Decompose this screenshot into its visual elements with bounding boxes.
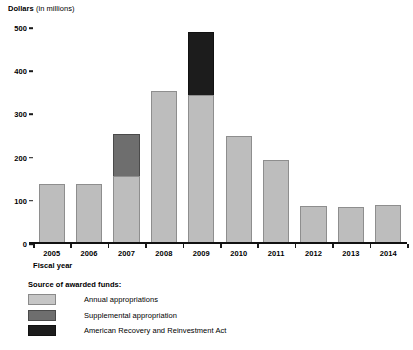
y-tick-label: 200 — [14, 153, 27, 162]
y-axis-title-strong: Dollars — [8, 4, 34, 13]
x-tick-mark — [183, 244, 185, 248]
legend-rows: Annual appropriationsSupplemental approp… — [28, 293, 398, 337]
bar-chart: Dollars (in millions) 0100200300400500 2… — [0, 0, 413, 350]
legend-label: American Recovery and Reinvestment Act — [84, 326, 226, 335]
x-tick-mark — [70, 244, 72, 248]
bar-group — [39, 184, 65, 244]
legend-swatch — [28, 294, 56, 305]
bar-group — [375, 205, 401, 244]
y-tick-mark — [29, 200, 33, 202]
y-tick-mark — [29, 27, 33, 29]
x-axis-line — [29, 242, 407, 244]
x-tick-label-2010: 2010 — [230, 249, 247, 258]
y-tick-mark — [29, 70, 33, 72]
x-tick-label-2006: 2006 — [81, 249, 98, 258]
bar-segment — [113, 134, 139, 176]
y-tick-label: 400 — [14, 67, 27, 76]
x-tick-mark — [295, 244, 297, 248]
x-tick-label-2005: 2005 — [43, 249, 60, 258]
legend-item: Annual appropriations — [28, 293, 398, 306]
bar-group — [76, 184, 102, 244]
y-tick-label: 100 — [14, 196, 27, 205]
bar-segment — [300, 206, 326, 244]
bars-layer — [33, 28, 407, 244]
x-tick-mark — [108, 244, 110, 248]
legend-swatch — [28, 310, 56, 321]
bar-group — [113, 134, 139, 244]
y-tick-label: 0 — [23, 240, 27, 249]
legend-label: Supplemental appropriation — [84, 311, 177, 320]
bar-segment — [188, 32, 214, 95]
bar-group — [338, 207, 364, 244]
legend-title: Source of awarded funds: — [28, 280, 398, 289]
plot-area: 0100200300400500 — [33, 28, 407, 244]
bar-segment — [76, 184, 102, 244]
bar-segment — [39, 184, 65, 244]
bar-group — [263, 160, 289, 244]
x-axis-title: Fiscal year — [33, 261, 72, 270]
bar-segment — [113, 176, 139, 244]
y-tick-mark — [29, 114, 33, 116]
x-tick-label-2012: 2012 — [305, 249, 322, 258]
x-tick-label-2011: 2011 — [268, 249, 285, 258]
bar-segment — [226, 136, 252, 244]
x-tick-mark — [370, 244, 372, 248]
y-tick-label: 300 — [14, 110, 27, 119]
legend-item: Supplemental appropriation — [28, 309, 398, 322]
bar-segment — [151, 91, 177, 244]
legend-swatch — [28, 325, 56, 336]
legend-label: Annual appropriations — [84, 295, 158, 304]
bar-group — [188, 32, 214, 244]
x-tick-mark — [257, 244, 259, 248]
x-tick-label-2007: 2007 — [118, 249, 135, 258]
y-tick-mark — [29, 157, 33, 159]
bar-segment — [338, 207, 364, 244]
bar-group — [300, 206, 326, 244]
x-tick-mark — [407, 244, 409, 248]
y-tick-label: 500 — [14, 24, 27, 33]
x-tick-label-2008: 2008 — [155, 249, 172, 258]
bar-segment — [188, 95, 214, 244]
x-tick-label-2013: 2013 — [342, 249, 359, 258]
x-tick-label-2009: 2009 — [193, 249, 210, 258]
legend: Source of awarded funds: Annual appropri… — [28, 280, 398, 340]
y-axis-title: Dollars (in millions) — [8, 4, 75, 13]
bar-segment — [375, 205, 401, 244]
y-axis-title-light: (in millions) — [36, 4, 75, 13]
bar-group — [226, 136, 252, 244]
x-tick-mark — [145, 244, 147, 248]
x-tick-mark — [220, 244, 222, 248]
bar-group — [151, 91, 177, 244]
bar-segment — [263, 160, 289, 244]
x-tick-label-2014: 2014 — [380, 249, 397, 258]
legend-item: American Recovery and Reinvestment Act — [28, 324, 398, 337]
x-tick-mark — [33, 244, 35, 248]
x-tick-mark — [332, 244, 334, 248]
